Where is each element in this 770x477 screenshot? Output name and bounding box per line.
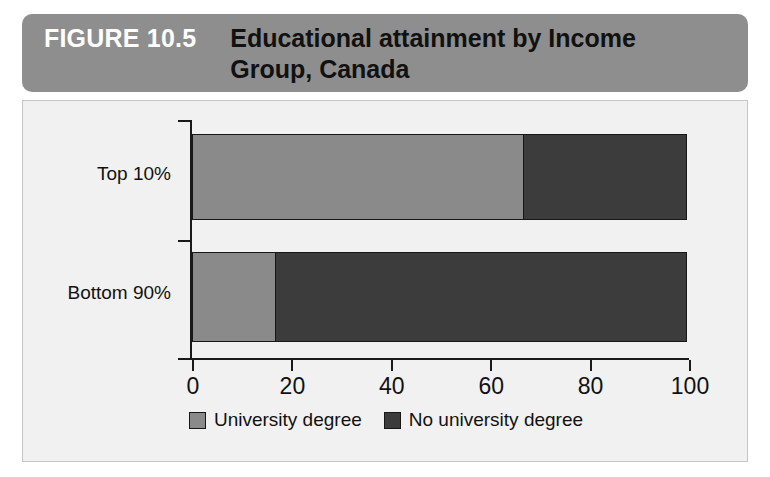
chart-legend: University degreeNo university degree (23, 409, 749, 431)
y-axis-category-label: Bottom 90% (68, 282, 172, 304)
bar-row (192, 252, 687, 342)
x-axis-tick-label: 20 (280, 373, 306, 400)
legend-swatch-icon (189, 412, 206, 429)
x-axis-tick-label: 0 (187, 373, 200, 400)
page-title: Educational attainment by Income Group, … (196, 23, 636, 85)
x-axis-tick (192, 360, 194, 371)
x-axis-tick (689, 360, 691, 371)
legend-label: University degree (214, 409, 362, 431)
plot-area: Top 10% Bottom 90% 020406080100 Universi… (23, 101, 749, 463)
legend-label: No university degree (409, 409, 583, 431)
bar-row (192, 134, 687, 220)
y-axis-tick (178, 358, 192, 360)
y-axis-tick (178, 120, 192, 122)
x-axis-tick (490, 360, 492, 371)
x-axis-tick-label: 60 (478, 373, 504, 400)
y-axis-tick (178, 240, 192, 242)
bar-segment (275, 252, 688, 342)
y-axis-category-label: Top 10% (97, 163, 171, 185)
legend-swatch-icon (384, 412, 401, 429)
x-axis-line (190, 358, 689, 360)
bar-segment (192, 252, 276, 342)
figure-title-line-1: Educational attainment by Income (230, 23, 636, 54)
legend-item: No university degree (384, 409, 583, 431)
x-axis-tick-label: 100 (671, 373, 709, 400)
bar-segment (192, 134, 525, 220)
figure-header-inner: FIGURE 10.5 Educational attainment by In… (22, 23, 748, 85)
legend-item: University degree (189, 409, 362, 431)
bar-segment (523, 134, 687, 220)
x-axis-tick-label: 40 (379, 373, 405, 400)
figure-header-banner: FIGURE 10.5 Educational attainment by In… (22, 14, 748, 92)
x-axis-tick (590, 360, 592, 371)
x-axis-tick (291, 360, 293, 371)
x-axis-tick (391, 360, 393, 371)
chart-panel: Top 10% Bottom 90% 020406080100 Universi… (22, 100, 748, 462)
figure-container: FIGURE 10.5 Educational attainment by In… (0, 0, 770, 477)
figure-number-label: FIGURE 10.5 (22, 23, 196, 54)
x-axis-tick-label: 80 (578, 373, 604, 400)
figure-title-line-2: Group, Canada (230, 54, 636, 85)
